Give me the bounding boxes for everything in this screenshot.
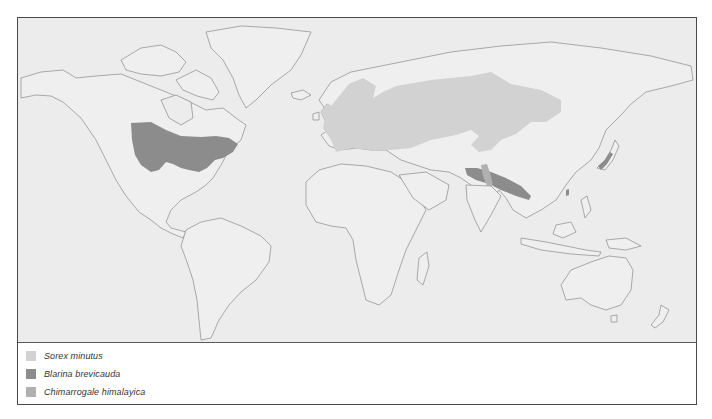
range-chimarrogale-himalayica-taiwan (566, 189, 569, 196)
legend-item-sorex-minutus: Sorex minutus (26, 349, 103, 363)
new-guinea-outline (606, 238, 641, 250)
legend-swatch-blarina-brevicauda (26, 369, 36, 379)
australia-outline (561, 256, 633, 310)
baffin-island-outline (176, 70, 219, 100)
tasmania-outline (611, 315, 617, 322)
legend-swatch-sorex-minutus (26, 351, 36, 361)
world-map (18, 18, 696, 343)
india-outline (466, 185, 501, 232)
legend-label: Sorex minutus (44, 351, 103, 361)
philippines-outline (581, 196, 591, 218)
map-canvas (18, 18, 696, 342)
ireland-outline (313, 112, 319, 120)
borneo-outline (553, 222, 576, 238)
legend-label: Blarina brevicauda (44, 369, 120, 379)
arctic-islands-outline (121, 45, 186, 76)
map-figure: Sorex minutus Blarina brevicauda Chimarr… (17, 17, 697, 405)
new-zealand-outline (651, 305, 669, 328)
madagascar-outline (417, 252, 429, 285)
legend-swatch-chimarrogale-himalayica (26, 387, 36, 397)
indonesia-outline (521, 238, 601, 256)
legend: Sorex minutus Blarina brevicauda Chimarr… (18, 343, 696, 405)
south-america-outline (181, 218, 271, 340)
legend-item-blarina-brevicauda: Blarina brevicauda (26, 367, 120, 381)
legend-item-chimarrogale-himalayica: Chimarrogale himalayica (26, 385, 145, 399)
legend-label: Chimarrogale himalayica (44, 387, 145, 397)
iceland-outline (291, 90, 311, 100)
